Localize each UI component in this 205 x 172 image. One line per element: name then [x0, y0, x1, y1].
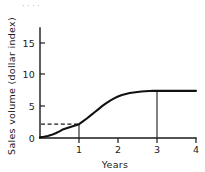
- sales-volume-curve: [40, 91, 196, 137]
- y-tick-label-0: 0: [29, 133, 35, 144]
- cropped-caption-remnant: · · · ·: [22, 2, 40, 11]
- x-axis-title: Years: [101, 159, 129, 170]
- x-tick-label-3: 3: [154, 144, 160, 155]
- chart-figure: · · · · 15 10 5 0: [0, 0, 205, 172]
- y-axis-title: Sales volume (dollar index): [6, 17, 17, 155]
- x-tick-label-1: 1: [76, 144, 82, 155]
- y-tick-marks: [40, 43, 45, 106]
- sales-volume-line-chart: · · · · 15 10 5 0: [0, 0, 205, 172]
- x-tick-label-4: 4: [193, 144, 199, 155]
- y-tick-label-10: 10: [23, 69, 36, 80]
- x-tick-marks: [79, 138, 196, 143]
- x-tick-label-2: 2: [115, 144, 121, 155]
- x-tick-labels: 1 2 3 4: [76, 144, 199, 155]
- y-tick-label-5: 5: [29, 101, 35, 112]
- y-tick-label-15: 15: [23, 38, 36, 49]
- y-tick-labels: 15 10 5 0: [23, 38, 36, 144]
- axes-group: [40, 28, 196, 138]
